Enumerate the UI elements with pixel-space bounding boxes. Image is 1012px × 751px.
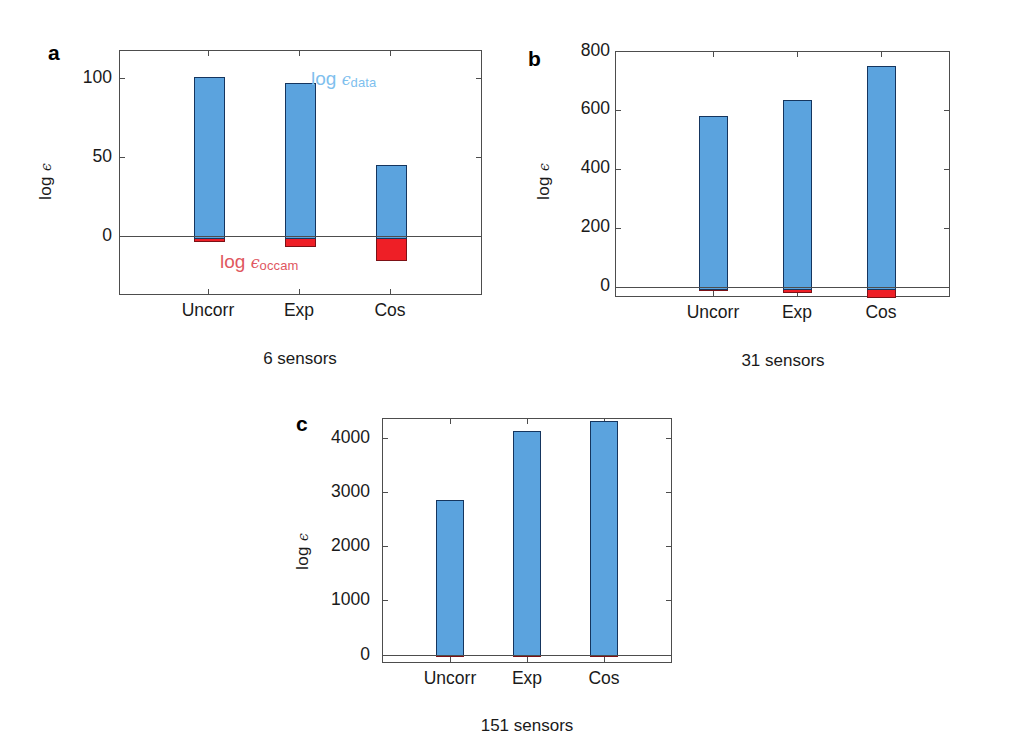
panel-c-caption: 151 sensors <box>407 717 647 734</box>
panel-a-bar-positive-uncorr <box>194 77 225 239</box>
epsilon-symbol: ϵ <box>295 533 311 541</box>
panel-a-tickmark-y <box>119 157 125 158</box>
panel-a-zero-line <box>119 236 482 237</box>
legend-occam-prefix: log <box>220 251 251 272</box>
legend-occam-subscript: occam <box>260 258 299 273</box>
panel-c-tickmark-x <box>527 657 528 663</box>
panel-b-tickmark-x <box>713 291 714 297</box>
panel-c-tickmark-y-right <box>666 600 672 601</box>
panel-a-bar-positive-cos <box>376 165 407 239</box>
panel-c-bar-positive-cos <box>590 421 618 656</box>
panel-c-y-axis-label: log ϵ <box>293 533 313 570</box>
panel-c-tickmark-x <box>450 657 451 663</box>
panel-c-ytick-label: 3000 <box>331 483 370 501</box>
panel-b-bar-positive-exp <box>783 100 812 290</box>
panel-b-tickmark-y <box>615 169 621 170</box>
legend-data-subscript: data <box>351 75 377 90</box>
panel-c-ytick-label: 2000 <box>331 537 370 555</box>
panel-a-bar-negative-cos <box>376 236 407 261</box>
epsilon-symbol: ϵ <box>38 163 54 171</box>
panel-a-y-axis-label: log ϵ <box>36 163 56 200</box>
panel-c-y-axis-label-text: log <box>293 541 312 570</box>
panel-a-tickmark-x-top <box>208 50 209 56</box>
panel-c-zero-line <box>382 655 672 656</box>
legend-data-epsilon-icon: ϵ <box>342 70 351 89</box>
panel-c-tickmark-x-top <box>527 418 528 424</box>
panel-b-tickmark-y-right <box>944 110 950 111</box>
panel-b-tickmark-y-right <box>944 228 950 229</box>
legend-data-prefix: log <box>311 68 342 89</box>
panel-b-tickmark-x-top <box>797 51 798 57</box>
panel-a-tickmark-x-top <box>299 50 300 56</box>
panel-b-y-axis-label-text: log <box>534 171 553 200</box>
panel-b-tickmark-y-right <box>944 169 950 170</box>
panel-a-ytick-label: 50 <box>93 148 112 166</box>
panel-a-tickmark-y <box>119 78 125 79</box>
panel-c-bar-positive-uncorr <box>436 500 464 656</box>
panel-a-ytick-label: 100 <box>83 69 112 87</box>
panel-a-tickmark-x-top <box>390 50 391 56</box>
panel-b-ytick-label: 200 <box>581 218 610 236</box>
panel-c-ytick-label: 4000 <box>331 429 370 447</box>
panel-b-ytick-label: 0 <box>600 277 610 295</box>
panel-a-tickmark-y-right <box>476 78 482 79</box>
panel-b-ytick-label: 400 <box>581 159 610 177</box>
legend-label-log-epsilon-data: log ϵdata <box>311 69 376 89</box>
panel-b-y-axis-label: log ϵ <box>534 163 554 200</box>
panel-letter-b: b <box>528 48 541 69</box>
panel-c-tickmark-y-right <box>666 438 672 439</box>
panel-b-bar-positive-uncorr <box>699 116 728 290</box>
panel-a-y-axis-label-text: log <box>36 171 55 200</box>
panel-a-ytick-label: 0 <box>102 227 112 245</box>
epsilon-symbol: ϵ <box>536 163 552 171</box>
panel-letter-a: a <box>48 42 60 63</box>
panel-c-tickmark-x-top <box>450 418 451 424</box>
panel-c-xtick-cos: Cos <box>544 670 664 688</box>
panel-b-tickmark-y <box>615 228 621 229</box>
panel-a-bar-positive-exp <box>285 83 316 239</box>
panel-c-tickmark-y <box>382 600 388 601</box>
panel-b-zero-line <box>615 287 950 288</box>
panel-c-ytick-label: 0 <box>360 646 370 664</box>
panel-b-tickmark-x-top <box>881 51 882 57</box>
panel-letter-c: c <box>296 413 308 434</box>
panel-c-tickmark-y <box>382 438 388 439</box>
panel-a-tickmark-y-right <box>476 157 482 158</box>
panel-a-tickmark-x <box>208 289 209 295</box>
panel-b-caption: 31 sensors <box>663 352 903 369</box>
panel-c-tickmark-y-right <box>666 492 672 493</box>
panel-b-ytick-label: 800 <box>581 42 610 60</box>
legend-occam-epsilon-icon: ϵ <box>251 253 260 272</box>
panel-c-tickmark-x <box>604 657 605 663</box>
panel-b-tickmark-y <box>615 110 621 111</box>
panel-a-xtick-cos: Cos <box>330 302 450 320</box>
panel-a-tickmark-x <box>390 289 391 295</box>
panel-b-xtick-cos: Cos <box>821 304 941 322</box>
panel-c-bar-positive-exp <box>513 431 541 656</box>
panel-b-tickmark-x-top <box>713 51 714 57</box>
panel-b-bar-positive-cos <box>867 66 896 290</box>
panel-c-tickmark-y <box>382 546 388 547</box>
panel-c-tickmark-y-right <box>666 546 672 547</box>
panel-b-ytick-label: 600 <box>581 100 610 118</box>
panel-c-tickmark-y <box>382 492 388 493</box>
panel-a-tickmark-x <box>299 289 300 295</box>
legend-label-log-epsilon-occam: log ϵoccam <box>220 252 298 272</box>
panel-a-caption: 6 sensors <box>180 350 420 367</box>
panel-c-ytick-label: 1000 <box>331 591 370 609</box>
